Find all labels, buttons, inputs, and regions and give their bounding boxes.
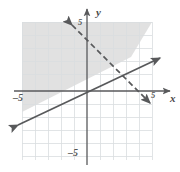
y-tick-positive-five: 5 [78, 18, 82, 27]
x-axis-label: x [170, 93, 176, 104]
x-tick-positive-five: 5 [151, 91, 155, 100]
x-tick-negative-five: –5 [13, 93, 23, 103]
coordinate-plane-svg [0, 0, 180, 172]
y-tick-negative-five: –5 [68, 148, 78, 158]
y-axis-label: y [96, 7, 101, 18]
graph-figure: x y –5 5 5 –5 [0, 0, 180, 172]
